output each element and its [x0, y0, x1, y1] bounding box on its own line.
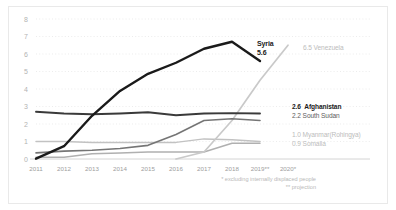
series-label-myanmar-rohingya: 1.0 Myanmar(Rohingya)	[292, 131, 361, 139]
series-label-somalia: 0.9 Somalia	[292, 140, 326, 148]
x-axis-tick: 2016	[162, 165, 190, 172]
x-axis-tick: 2012	[50, 165, 78, 172]
series-label-afghanistan: 2.6 Afghanistan	[292, 103, 341, 111]
y-axis-tick: 2	[14, 121, 28, 128]
y-axis-tick: 7	[14, 33, 28, 40]
x-axis-tick: 2017	[190, 165, 218, 172]
y-axis-tick: 4	[14, 86, 28, 93]
series-label-south-sudan: 2.2 South Sudan	[292, 112, 340, 120]
footnote: ** projection	[286, 184, 316, 191]
series-label-syria: Syria5.6	[257, 40, 274, 57]
y-axis-tick: 5	[14, 68, 28, 75]
x-axis-tick: 2015	[134, 165, 162, 172]
y-axis-tick: 6	[14, 51, 28, 58]
x-axis-tick: 2011	[22, 165, 50, 172]
y-axis-tick: 3	[14, 103, 28, 110]
x-axis-tick: 2014	[106, 165, 134, 172]
y-axis-tick: 0	[14, 156, 28, 163]
series-label-venezuela: 6.5 Venezuela	[303, 44, 344, 52]
x-axis-tick: 2013	[78, 165, 106, 172]
x-axis-tick: 2018	[218, 165, 246, 172]
y-axis-tick: 1	[14, 138, 28, 145]
series-lines	[36, 42, 288, 159]
x-axis-tick: 2019**	[246, 165, 274, 172]
y-axis-tick: 8	[14, 16, 28, 23]
x-axis-tick: 2020*	[274, 165, 302, 172]
footnote: * excluding internally displaced people	[221, 176, 316, 183]
